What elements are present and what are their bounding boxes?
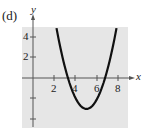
y-axis-label: y bbox=[31, 3, 36, 15]
x-axis-label: x bbox=[136, 70, 141, 82]
y-tick-label-4: 4 bbox=[23, 30, 29, 42]
chart-plot bbox=[0, 0, 143, 131]
x-tick-label-4: 4 bbox=[72, 82, 78, 94]
x-tick-label-8: 8 bbox=[115, 82, 121, 94]
x-axis-arrow-icon bbox=[129, 76, 135, 80]
x-tick-label-6: 6 bbox=[94, 82, 100, 94]
x-tick-label-2: 2 bbox=[51, 82, 57, 94]
y-tick-label-2: 2 bbox=[23, 50, 29, 62]
